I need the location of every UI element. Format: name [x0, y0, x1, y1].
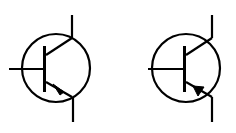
npn-transistor-symbol [9, 15, 90, 122]
npn-collector-diagonal [46, 38, 72, 55]
npn-emitter-arrow-icon [53, 84, 64, 95]
pnp-transistor-symbol [148, 15, 220, 122]
pnp-collector-diagonal [186, 38, 212, 55]
transistor-diagram [0, 0, 236, 133]
